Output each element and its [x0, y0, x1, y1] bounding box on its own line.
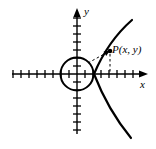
y-axis	[73, 8, 81, 134]
math-figure: y x P(x, y)	[0, 0, 156, 149]
point-p-label: P(x, y)	[112, 44, 141, 55]
parabola-curve	[94, 20, 132, 138]
x-axis-label: x	[140, 79, 145, 90]
figure-canvas	[0, 0, 156, 149]
x-axis	[12, 70, 148, 78]
y-axis-label: y	[84, 6, 89, 17]
y-axis-arrowhead-icon	[73, 8, 80, 17]
x-axis-arrowhead-icon	[139, 70, 148, 77]
